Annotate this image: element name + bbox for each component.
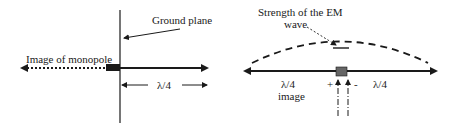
image-label: image	[278, 90, 305, 102]
left-diagram	[22, 10, 207, 123]
em-wave-strength-label-line1: Strength of the EM	[258, 6, 343, 18]
quarter-wavelength-label: λ/4	[157, 79, 171, 91]
diagram-canvas	[0, 0, 456, 130]
monopole-feed-block	[106, 64, 120, 71]
dipole-feed-block	[336, 67, 347, 76]
em-wave-strength-curve	[252, 42, 428, 64]
image-of-monopole-label: Image of monopole	[26, 53, 112, 65]
minus-sign: -	[354, 78, 358, 90]
left-quarter-wavelength-label: λ/4	[281, 78, 295, 90]
right-diagram	[245, 27, 436, 116]
ground-plane-pointer-arrow	[124, 29, 180, 38]
plus-sign: +	[327, 78, 333, 90]
em-wave-strength-label-line2: wave	[284, 18, 307, 30]
ground-plane-label: Ground plane	[152, 14, 212, 26]
right-quarter-wavelength-label: λ/4	[373, 78, 387, 90]
